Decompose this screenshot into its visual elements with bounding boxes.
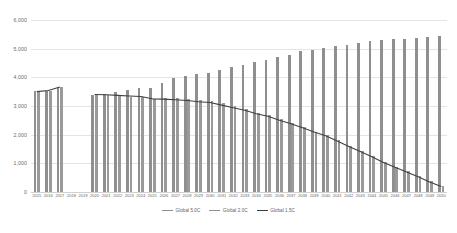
y-axis-tick-label: 0 — [24, 189, 27, 195]
x-axis-tick-label: 2028 — [183, 193, 192, 198]
x-axis-tick-label: 2049 — [425, 193, 434, 198]
x-axis-tick-label: 2036 — [275, 193, 284, 198]
x-axis-tick-label: 2043 — [356, 193, 365, 198]
plot-area — [31, 20, 447, 192]
x-axis-tick-label: 2037 — [287, 193, 296, 198]
y-axis-tick-label: 5,000 — [14, 46, 27, 52]
line-series-path — [37, 87, 60, 92]
x-axis-tick-label: 2032 — [229, 193, 238, 198]
y-axis-tick-label: 1,000 — [14, 160, 27, 166]
line-series-layer — [31, 20, 447, 192]
x-axis-tick-label: 2027 — [171, 193, 180, 198]
x-axis-tick-label: 2017 — [55, 193, 64, 198]
legend-label: Global 2.0C — [223, 208, 248, 213]
x-axis-tick-label: 2016 — [44, 193, 53, 198]
y-axis-tick-label: 3,000 — [14, 103, 27, 109]
x-axis-tick-label: 2038 — [298, 193, 307, 198]
x-axis-labels: 2015201620172018201920202021202220232024… — [31, 193, 447, 203]
x-axis-tick-label: 2040 — [321, 193, 330, 198]
chart-container: 01,0002,0003,0004,0005,0006,000 20152016… — [0, 0, 457, 233]
x-axis-tick-label: 2035 — [263, 193, 272, 198]
x-axis-tick-label: 2046 — [391, 193, 400, 198]
legend-swatch-icon — [257, 210, 268, 212]
x-axis-tick-label: 2020 — [90, 193, 99, 198]
chart-legend: Global 5.0CGlobal 2.0CGlobal 1.5C — [0, 208, 457, 213]
legend-label: Global 1.5C — [270, 208, 295, 213]
legend-label: Global 5.0C — [176, 208, 201, 213]
x-axis-tick-label: 2034 — [252, 193, 261, 198]
legend-item[interactable]: Global 1.5C — [257, 208, 295, 213]
x-axis-tick-label: 2039 — [310, 193, 319, 198]
y-axis-tick-label: 2,000 — [14, 132, 27, 138]
legend-item[interactable]: Global 2.0C — [209, 208, 247, 213]
x-axis-tick-label: 2031 — [217, 193, 226, 198]
x-axis-tick-label: 2041 — [333, 193, 342, 198]
x-axis-tick-label: 2033 — [240, 193, 249, 198]
x-axis-tick-label: 2021 — [102, 193, 111, 198]
x-axis-tick-label: 2047 — [402, 193, 411, 198]
x-axis-tick-label: 2044 — [367, 193, 376, 198]
line-series-path — [95, 95, 442, 187]
y-axis-tick-label: 4,000 — [14, 74, 27, 80]
x-axis-tick-label: 2015 — [32, 193, 41, 198]
x-axis-tick-label: 2024 — [136, 193, 145, 198]
x-axis-tick-label: 2048 — [414, 193, 423, 198]
x-axis-tick-label: 2019 — [79, 193, 88, 198]
x-axis-tick-label: 2022 — [113, 193, 122, 198]
legend-swatch-icon — [209, 210, 220, 211]
x-axis-tick-label: 2018 — [67, 193, 76, 198]
x-axis-tick-label: 2050 — [437, 193, 446, 198]
x-axis-tick-label: 2025 — [148, 193, 157, 198]
x-axis-tick-label: 2023 — [125, 193, 134, 198]
x-axis-tick-label: 2030 — [206, 193, 215, 198]
y-axis-tick-label: 6,000 — [14, 17, 27, 23]
x-axis-tick-label: 2029 — [194, 193, 203, 198]
legend-item[interactable]: Global 5.0C — [162, 208, 200, 213]
y-axis-labels: 01,0002,0003,0004,0005,0006,000 — [0, 0, 31, 233]
x-axis-tick-label: 2045 — [379, 193, 388, 198]
x-axis-tick-label: 2042 — [344, 193, 353, 198]
x-axis-tick-label: 2026 — [159, 193, 168, 198]
legend-swatch-icon — [162, 210, 173, 211]
